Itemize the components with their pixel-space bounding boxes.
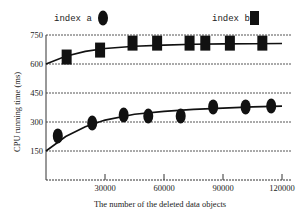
legend-label-index-a: index a	[54, 14, 92, 24]
data-point-index-b	[62, 50, 72, 65]
x-tick-label: 120000	[269, 183, 295, 193]
data-point-index-b	[185, 36, 195, 51]
fit-curves	[46, 44, 282, 152]
x-tick-label: 30000	[94, 183, 115, 193]
data-point-index-b	[128, 36, 138, 51]
chart: 150300450600750300006000090000120000 ind…	[0, 0, 305, 213]
data-point-index-a	[119, 108, 129, 123]
data-point-index-a	[241, 99, 251, 114]
data-point-index-b	[152, 36, 162, 51]
y-tick-label: 300	[30, 117, 43, 127]
square-marker-icon	[250, 11, 259, 25]
data-point-index-a	[266, 98, 276, 113]
y-tick-label: 450	[30, 88, 43, 98]
legend: index a index b	[54, 11, 259, 26]
data-point-index-a	[143, 109, 153, 124]
x-tick-label: 60000	[153, 183, 174, 193]
fit-curve-index-b	[46, 44, 282, 65]
data-point-index-b	[225, 36, 235, 51]
legend-label-index-b: index b	[212, 14, 250, 24]
data-point-index-a	[208, 99, 218, 114]
data-point-index-a	[87, 115, 97, 130]
x-axis-title: The number of the deleted data objects	[94, 199, 226, 209]
y-tick-label: 750	[30, 30, 43, 40]
ellipse-marker-icon	[98, 11, 108, 26]
y-axis-title: CPU running time (ms)	[12, 72, 22, 152]
data-point-index-b	[257, 36, 267, 51]
x-tick-label: 90000	[212, 183, 233, 193]
chart-canvas: 150300450600750300006000090000120000 ind…	[0, 0, 305, 213]
y-tick-label: 600	[30, 59, 43, 69]
data-point-index-a	[53, 128, 63, 143]
data-point-index-b	[200, 36, 210, 51]
y-tick-label: 150	[30, 146, 43, 156]
data-point-index-a	[176, 109, 186, 124]
data-point-index-b	[95, 43, 105, 58]
